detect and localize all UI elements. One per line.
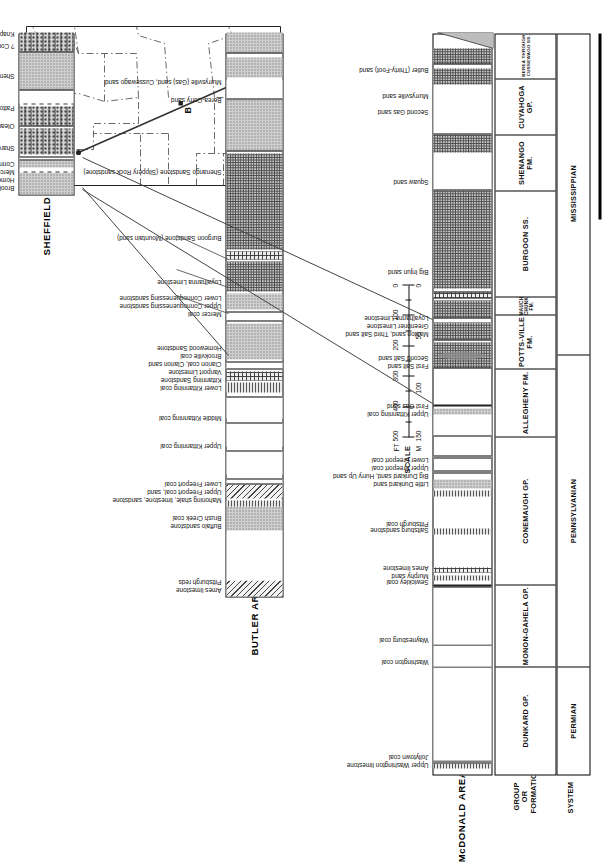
correlation-lines [60, 15, 440, 415]
unit-band [433, 479, 491, 488]
system-cell-mississippian: MISSISSIPPIAN [557, 32, 589, 354]
unit-band [226, 506, 282, 530]
unit-label: Ames limestone [383, 564, 428, 571]
unit-label: Upper Freeport coal [371, 464, 428, 471]
system-row: PERMIAN PENNSYLVANIAN MISSISSIPPIAN [556, 33, 590, 775]
unit-band [433, 152, 491, 190]
unit-band [433, 291, 491, 298]
unit-label: Upper Kittanning coal [160, 442, 221, 449]
unit-band [433, 470, 491, 473]
unit-label: Lower Freeport coal [371, 456, 428, 463]
unit-band [433, 575, 491, 580]
unit-band [433, 190, 491, 288]
unit-band [433, 408, 491, 414]
group-label: MAUCH CHUNK FM. [518, 296, 533, 315]
unit-label: Ames limestone [176, 586, 221, 593]
group-cell-burgoon: BURGOON SS. [495, 190, 555, 296]
unit-band [226, 478, 282, 484]
group-cell-pottsville: POTTS-VILLE FM. [495, 314, 555, 368]
unit-band [433, 586, 491, 644]
scale-m-tick-label: 150 [414, 430, 421, 441]
unit-band [226, 484, 282, 498]
unit-label: Buffalo sandstone [170, 522, 221, 529]
group-label: BEREA THROUGH CUSSEWAGO SS. [520, 32, 530, 78]
unit-label: Shenango-Cuyahoga sand [0, 72, 14, 79]
unit-label: Connoquenessing Sandstone [0, 160, 14, 167]
scale-tick-ft [402, 436, 414, 437]
unit-band [433, 404, 491, 406]
plate-bottom-rule [598, 33, 601, 219]
group-label: MONON-GAHELA GP. [521, 586, 529, 664]
unit-band [433, 68, 491, 84]
group-cell-monongahela: MONON-GAHELA GP. [495, 584, 555, 666]
unit-label: Saltsburg sandstone [370, 526, 428, 533]
unit-band [433, 666, 491, 760]
unit-band [433, 490, 491, 496]
scale-tick-ft [405, 421, 411, 422]
scale-ft-tick-label: 500 [391, 430, 398, 441]
group-cell-conemaugh: CONEMAUGH GP. [495, 436, 555, 584]
column-mcdonald [432, 33, 492, 775]
unit-label: Pittsburgh reds [178, 578, 221, 585]
unit-label: Brush Creek coal [172, 514, 221, 521]
unit-band [226, 422, 282, 446]
unit-label: Upper Washington limestone [346, 761, 428, 768]
unit-band [226, 500, 282, 506]
unit-label: ? Corry ? [0, 42, 14, 49]
unit-band [226, 450, 282, 474]
group-cell-mauch-chunk: MAUCH CHUNK FM. [495, 296, 555, 314]
unit-label: Homewood sand [0, 176, 14, 183]
group-label: CUYAHOGA GP. [517, 79, 533, 134]
butler-thirty-foot-wedge [433, 32, 493, 48]
group-label: POTTS-VILLE FM. [517, 315, 533, 368]
group-cell-berea-cussewago: BEREA THROUGH CUSSEWAGO SS. [495, 32, 555, 78]
unit-band [433, 763, 491, 768]
unit-band [433, 584, 491, 586]
unit-band [433, 134, 491, 152]
unit-band [433, 644, 491, 666]
unit-label: Knapp [0, 30, 14, 37]
unit-band [433, 455, 491, 458]
scale-m-unit: M [414, 446, 421, 452]
unit-band [433, 48, 491, 64]
group-label: CONEMAUGH GP. [521, 478, 529, 543]
group-cell-dunkard: DUNKARD GP. [495, 666, 555, 774]
system-label: MISSISSIPPIAN [569, 164, 577, 221]
system-label: PERMIAN [569, 703, 577, 738]
unit-label: Upper Freeport coal, sand [147, 488, 221, 495]
unit-band [433, 322, 491, 340]
group-cell-shenango: SHENANGO FM. [495, 134, 555, 190]
system-cell-pennsylvanian: PENNSYLVANIAN [557, 354, 589, 666]
unit-label: Brookville coal [0, 184, 14, 191]
group-row: DUNKARD GP. MONON-GAHELA GP. CONEMAUGH G… [494, 33, 556, 775]
unit-label: Washington coal [381, 658, 428, 665]
unit-label: Big Dunkard sand, Hurry Up sand [332, 472, 428, 479]
unit-label: Murphy sand [391, 572, 428, 579]
table-rowhead-group: GROUP OR FORMATION [512, 779, 537, 813]
system-cell-permian: PERMIAN [557, 666, 589, 774]
group-cell-cuyahoga: CUYAHOGA GP. [495, 78, 555, 134]
table-rowhead-system: SYSTEM [566, 785, 574, 813]
unit-label: Jollytown coal [388, 753, 428, 760]
unit-label: Mahoning shale, limestone, sandstone [112, 496, 221, 503]
unit-label: Sharon [0, 144, 14, 151]
unit-band [433, 300, 491, 318]
scale-ft-unit: FT [392, 443, 399, 451]
salt-sand-lens [437, 346, 489, 364]
unit-band [433, 414, 491, 436]
unit-band [433, 528, 491, 534]
unit-label: Olean [0, 122, 14, 129]
unit-label: Mercer shale, coal [0, 168, 14, 175]
unit-band [433, 84, 491, 134]
unit-band [433, 567, 491, 572]
group-label: BURGOON SS. [521, 216, 529, 270]
unit-label: Lower Freeport coal [164, 480, 221, 487]
unit-label: Little Dunkard sand [373, 480, 428, 487]
unit-label: Patton shale [0, 104, 14, 111]
unit-label: Waynesburg coal [379, 636, 428, 643]
unit-band [226, 530, 282, 580]
group-label: SHENANGO FM. [517, 135, 533, 190]
unit-band [226, 580, 282, 596]
group-label: DUNKARD GP. [521, 694, 529, 747]
